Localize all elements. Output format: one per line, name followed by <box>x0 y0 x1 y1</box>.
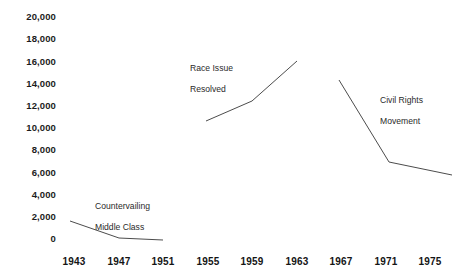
annotation-line-1: Countervailing <box>95 201 150 212</box>
x-tick-label: 1959 <box>229 256 275 267</box>
annotation-line-2: Movement <box>380 116 423 127</box>
x-tick-label: 1947 <box>96 256 142 267</box>
annotation-line-2: Middle Class <box>95 222 150 233</box>
x-tick-label: 1951 <box>140 256 186 267</box>
x-tick-label: 1975 <box>407 256 453 267</box>
x-tick-label: 1963 <box>274 256 320 267</box>
annotation-countervailing-middle-class: Countervailing Middle Class <box>95 190 150 243</box>
x-tick-label: 1967 <box>318 256 364 267</box>
x-tick-label: 1971 <box>363 256 409 267</box>
annotation-line-1: Race Issue <box>190 63 233 74</box>
annotation-line-1: Civil Rights <box>380 95 423 106</box>
annotation-race-issue-resolved: Race Issue Resolved <box>190 52 233 105</box>
annotation-line-2: Resolved <box>190 84 233 95</box>
x-tick-label: 1955 <box>185 256 231 267</box>
chart-container: 20,000 18,000 16,000 14,000 12,000 10,00… <box>0 0 453 278</box>
x-tick-label: 1943 <box>51 256 97 267</box>
annotation-civil-rights-movement: Civil Rights Movement <box>380 84 423 137</box>
plot-area <box>0 0 453 278</box>
